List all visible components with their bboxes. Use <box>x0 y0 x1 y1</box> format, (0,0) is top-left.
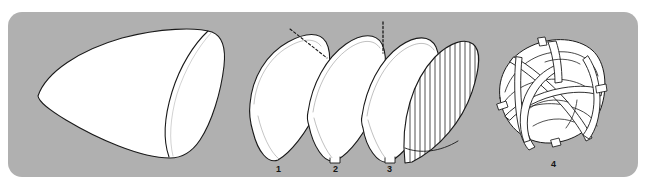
step-label-1: 1 <box>276 165 281 174</box>
illustration-figure: 1 2 3 4 <box>0 0 649 190</box>
step-label-4: 4 <box>551 160 556 169</box>
shape-whole-cabbage-half <box>38 29 225 158</box>
step-label-3: 3 <box>387 165 392 174</box>
step-label-2: 2 <box>333 165 338 174</box>
shape-shredded-pile <box>497 37 607 150</box>
